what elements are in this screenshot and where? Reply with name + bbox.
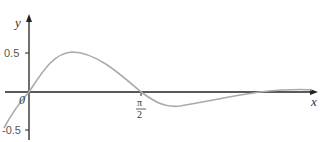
y-tick-label-neg: -0.5 <box>2 124 21 136</box>
y-axis-label: y <box>13 15 21 30</box>
x-tick-label-numerator: π <box>137 97 142 108</box>
y-tick-label-pos: 0.5 <box>4 47 19 59</box>
x-axis-label: x <box>310 94 317 109</box>
x-tick-label-denominator: 2 <box>137 109 142 120</box>
chart-canvas: y x 0 0.5 -0.5 π 2 <box>0 0 327 142</box>
y-axis-arrow-icon <box>26 14 32 22</box>
data-curve <box>4 52 312 128</box>
origin-label: 0 <box>19 93 25 107</box>
